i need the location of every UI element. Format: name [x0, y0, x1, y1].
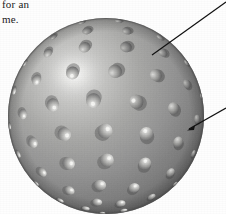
figure-panel: for an me. [0, 0, 226, 214]
sphere-svg [8, 10, 204, 214]
bump-mapped-sphere [8, 10, 204, 214]
body-copy-line-1: for an [2, 0, 29, 10]
sphere-grain [8, 10, 204, 214]
